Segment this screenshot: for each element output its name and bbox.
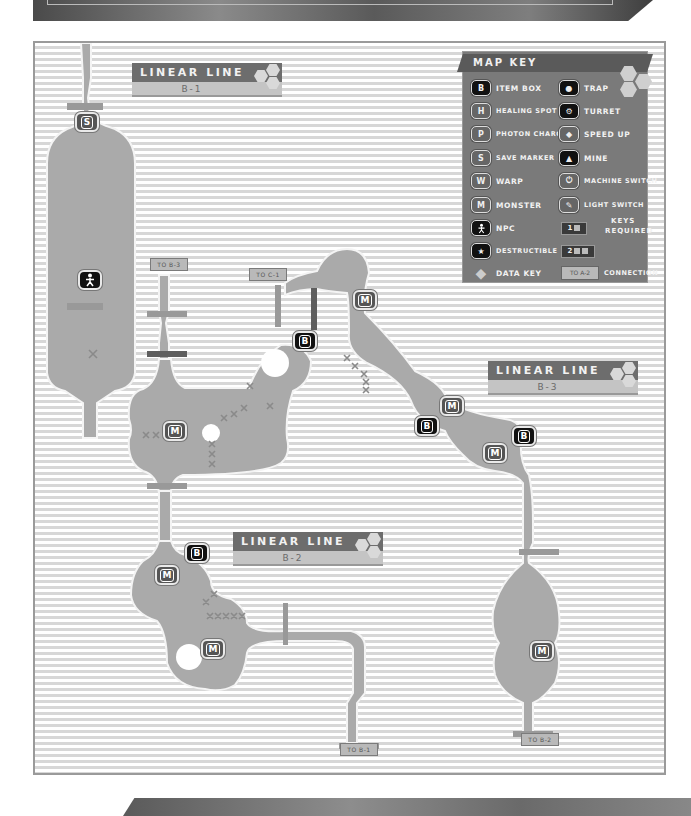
key-photon-charge: PPhoton Charge — [471, 125, 567, 143]
keys-required-label: Keys Required — [605, 216, 653, 236]
key-npc: NPC — [471, 219, 515, 237]
game-guide-page: LINEAR LINE B-1 LINEAR LINE B-2 LINEAR L… — [0, 0, 691, 816]
connection-to-b1[interactable]: TO B-1 — [340, 743, 378, 756]
mine-icon: ▲ — [559, 150, 579, 166]
key-monster: MMonster — [471, 196, 542, 214]
star-icon: ★ — [471, 243, 491, 259]
trap-icon: ● — [559, 80, 579, 96]
item-box-icon: B — [471, 80, 491, 96]
key-machine-switch: ⏻Machine Switch — [559, 172, 658, 190]
npc-icon[interactable] — [78, 270, 102, 290]
area-subtitle: B-3 — [488, 380, 638, 395]
corridor-b3 — [159, 275, 169, 361]
bottom-banner — [123, 798, 691, 816]
key-turret: ⚙Turret — [559, 102, 621, 120]
room-b1 — [47, 43, 135, 438]
key-keys-required-2: 2 — [561, 242, 595, 260]
corridor-central-b2 — [159, 491, 171, 543]
monster-icon[interactable]: M — [201, 639, 225, 659]
speed-up-icon: ◆ — [559, 126, 579, 142]
map-key-title: MAP KEY — [473, 57, 537, 68]
key-mine: ▲Mine — [559, 149, 608, 167]
area-title-b2: LINEAR LINE B-2 — [233, 532, 383, 568]
key-trap: ●Trap — [559, 79, 609, 97]
key-healing-spot: HHealing Spot — [471, 102, 557, 120]
warp-icon: W — [471, 173, 491, 189]
monster-icon[interactable]: M — [353, 290, 377, 310]
light-switch-icon: ✎ — [559, 197, 579, 213]
power-switch-icon: ⏻ — [559, 173, 579, 189]
connection-example: TO A-2 — [561, 266, 599, 280]
item-box-icon[interactable]: B — [293, 331, 317, 351]
photon-charge-icon: P — [471, 126, 491, 142]
connection-to-b2[interactable]: TO B-2 — [521, 733, 559, 746]
key-item-box: BItem Box — [471, 79, 542, 97]
key-destructible: ★Destructible — [471, 242, 558, 260]
monster-icon[interactable]: M — [483, 443, 507, 463]
monster-icon[interactable]: M — [530, 641, 554, 661]
area-title-b1: LINEAR LINE B-1 — [132, 63, 282, 99]
item-box-icon[interactable]: B — [185, 543, 209, 563]
item-box-icon[interactable]: B — [415, 416, 439, 436]
map-frame: LINEAR LINE B-1 LINEAR LINE B-2 LINEAR L… — [33, 41, 666, 775]
key-speed-up: ◆Speed Up — [559, 125, 630, 143]
connection-to-c1[interactable]: TO C-1 — [249, 268, 287, 281]
key-keys-required-1: 1 — [561, 219, 587, 237]
connection-to-b3[interactable]: TO B-3 — [150, 258, 188, 271]
map-key: MAP KEY BItem Box HHealing Spot PPhoton … — [462, 51, 648, 283]
healing-spot-icon: H — [471, 103, 491, 119]
key-warp: WWarp — [471, 172, 523, 190]
save-marker-icon[interactable]: S — [75, 112, 99, 132]
save-marker-icon: S — [471, 150, 491, 166]
monster-icon: M — [471, 197, 491, 213]
turret-icon: ⚙ — [559, 103, 579, 119]
data-key-icon: ◆ — [471, 265, 491, 281]
monster-icon[interactable]: M — [440, 396, 464, 416]
area-title-b3: LINEAR LINE B-3 — [488, 361, 638, 397]
key-data-key: ◆Data Key — [471, 264, 542, 282]
one-key-icon: 1 — [561, 222, 587, 235]
monster-icon[interactable]: M — [163, 421, 187, 441]
monster-icon[interactable]: M — [155, 565, 179, 585]
area-subtitle: B-2 — [233, 551, 383, 566]
area-subtitle: B-1 — [132, 82, 282, 97]
key-connection: TO A-2Connection — [561, 264, 658, 282]
room-b3-path — [285, 249, 560, 733]
key-light-switch: ✎Light Switch — [559, 196, 644, 214]
top-banner — [33, 0, 653, 21]
two-keys-icon: 2 — [561, 245, 595, 258]
key-save-marker: SSave Marker — [471, 149, 555, 167]
item-box-icon[interactable]: B — [512, 426, 536, 446]
npc-icon — [471, 220, 491, 236]
